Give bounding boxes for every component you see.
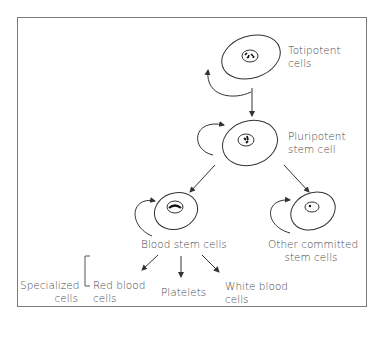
label-line: Red blood bbox=[93, 279, 145, 292]
label-pluripotent-stem-cell: Pluripotent stem cell bbox=[288, 130, 346, 156]
self-renewal-arrow-totipotent bbox=[208, 70, 251, 96]
specialized-cells-bracket bbox=[85, 256, 90, 286]
arrow-pluripotent-to-other-committed bbox=[284, 165, 309, 192]
label-line: cells bbox=[225, 293, 288, 306]
self-renewal-arrow-other-committed bbox=[271, 200, 291, 233]
label-line: cells bbox=[288, 57, 341, 70]
label-line: stem cells bbox=[268, 251, 354, 264]
label-red-blood-cells: Red blood cells bbox=[93, 279, 145, 305]
arrow-to-white-blood-cells bbox=[202, 255, 219, 272]
self-renewal-arrow-pluripotent bbox=[198, 124, 224, 155]
label-line: cells bbox=[20, 292, 78, 305]
label-line: Platelets bbox=[161, 286, 206, 299]
pluripotent-cell-icon bbox=[217, 113, 284, 172]
other-committed-cell-icon bbox=[285, 185, 342, 237]
label-totipotent-cells: Totipotent cells bbox=[288, 44, 341, 70]
label-line: Other committed bbox=[268, 238, 354, 251]
arrow-pluripotent-to-blood-stem bbox=[190, 165, 215, 192]
label-line: Blood stem cells bbox=[141, 238, 227, 251]
arrow-to-red-blood-cells bbox=[142, 255, 158, 270]
label-white-blood-cells: White blood cells bbox=[225, 280, 288, 306]
blood-stem-cell-icon bbox=[149, 187, 203, 236]
label-line: White blood bbox=[225, 280, 288, 293]
label-line: Specialized bbox=[20, 279, 78, 292]
label-line: Pluripotent bbox=[288, 130, 346, 143]
label-other-committed-stem-cells: Other committed stem cells bbox=[268, 238, 354, 264]
self-renewal-arrow-blood-stem bbox=[135, 200, 155, 236]
totipotent-cell-icon bbox=[216, 28, 286, 86]
label-platelets: Platelets bbox=[161, 286, 206, 299]
label-blood-stem-cells: Blood stem cells bbox=[141, 238, 227, 251]
label-line: stem cell bbox=[288, 143, 346, 156]
label-line: cells bbox=[93, 292, 145, 305]
label-line: Totipotent bbox=[288, 44, 341, 57]
label-specialized-cells: Specialized cells bbox=[20, 279, 78, 305]
